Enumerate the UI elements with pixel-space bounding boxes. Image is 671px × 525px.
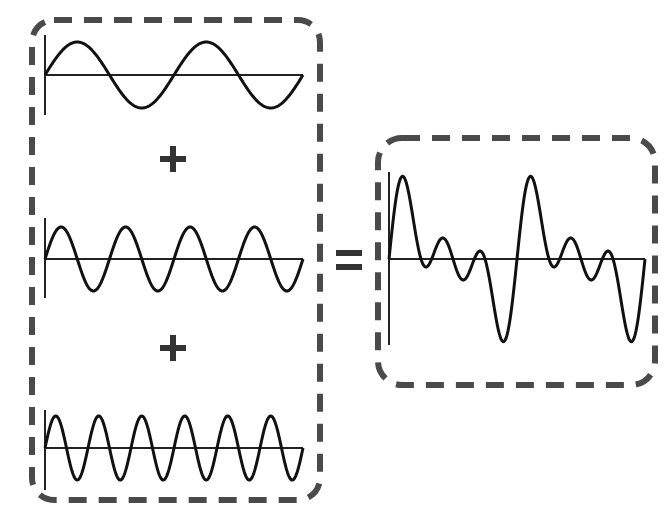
component-wave-3: [45, 410, 303, 490]
plus-sign-1: [160, 146, 186, 172]
result-wave: [389, 172, 645, 345]
component-wave-2: [45, 218, 303, 298]
component-wave-1: [45, 35, 303, 115]
plus-sign-2: [160, 335, 186, 361]
fourier-diagram: [0, 0, 671, 525]
equals-sign: [336, 250, 362, 270]
